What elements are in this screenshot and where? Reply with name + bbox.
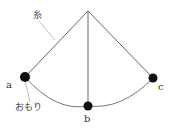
bob-c <box>149 74 158 83</box>
point-a-label: a <box>6 80 12 90</box>
point-c-label: c <box>158 82 164 92</box>
bob-b <box>84 102 93 111</box>
pendulum-diagram: 糸 a おもり b c <box>0 0 176 136</box>
string-label: 糸 <box>33 11 42 20</box>
point-b-label: b <box>84 114 90 124</box>
bob-a <box>20 72 30 82</box>
string-to-a <box>25 11 88 77</box>
string-to-c <box>88 11 153 78</box>
weight-label: おもり <box>15 103 42 112</box>
string-label-leader <box>39 21 55 40</box>
weight-label-leader <box>25 80 30 102</box>
